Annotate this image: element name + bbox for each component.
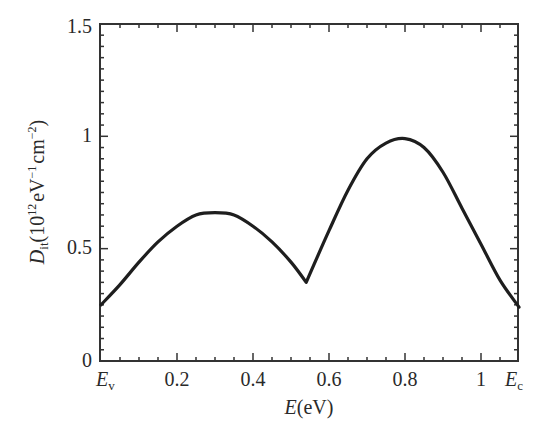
dit-curve (101, 138, 519, 307)
x-tick-label-ec: Ec (504, 368, 523, 393)
x-tick-label: 1 (476, 368, 486, 390)
chart: 0 0.5 1 1.5 Ev 0.2 0.4 0.6 0.8 1 Ec E(eV… (0, 0, 545, 434)
x-tick-label: 0.6 (317, 368, 342, 390)
x-tick-label: 0.4 (241, 368, 266, 390)
y-tick-label: 1.5 (67, 15, 92, 37)
y-tick-label: 0.5 (67, 236, 92, 258)
x-axis-label: E(eV) (284, 396, 334, 419)
x-tick-label: 0.2 (165, 368, 190, 390)
y-axis-label: Dit(1012eV−1cm−2) (25, 120, 51, 265)
x-tick-label: 0.8 (393, 368, 418, 390)
y-tick-label: 1 (82, 124, 92, 146)
x-tick-label-ev: Ev (95, 368, 115, 393)
y-tick-label: 0 (82, 349, 92, 371)
